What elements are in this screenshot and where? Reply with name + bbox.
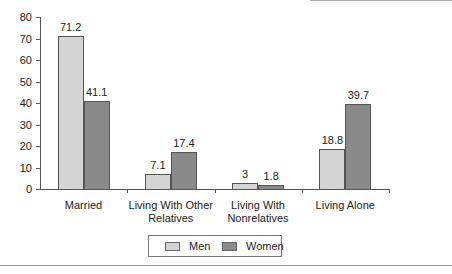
legend-label-women: Women: [246, 240, 284, 253]
bar-value-label: 71.2: [51, 21, 91, 33]
y-tick-label: 60: [0, 54, 32, 66]
bar-value-label: 41.1: [77, 86, 117, 98]
top-rule: [310, 0, 452, 1]
y-tick-label: 0: [0, 183, 32, 195]
legend-swatch-women: [222, 242, 237, 251]
y-tick-label: 10: [0, 162, 32, 174]
legend: Men Women: [148, 235, 282, 257]
bar-men: [58, 36, 84, 190]
bar-women: [171, 152, 197, 190]
bar-men: [232, 183, 258, 190]
bar-value-label: 39.7: [338, 89, 378, 101]
category-label: Living WithNonrelatives: [215, 199, 302, 225]
legend-swatch-men: [165, 242, 180, 251]
y-tick: [36, 82, 40, 83]
x-tick: [302, 189, 303, 193]
bar-women: [345, 104, 371, 190]
y-tick: [36, 146, 40, 147]
x-tick: [389, 189, 390, 193]
bar-value-label: 1.8: [251, 170, 291, 182]
y-tick: [36, 189, 40, 190]
legend-label-men: Men: [189, 240, 210, 253]
y-tick: [36, 60, 40, 61]
category-label: Living Alone: [302, 199, 389, 212]
x-tick: [127, 189, 128, 193]
y-tick: [36, 103, 40, 104]
bar-men: [145, 174, 171, 190]
y-tick-label: 50: [0, 76, 32, 88]
x-tick: [215, 189, 216, 193]
y-tick-label: 30: [0, 119, 32, 131]
y-tick: [36, 17, 40, 18]
bar-men: [319, 149, 345, 190]
category-label: Living With OtherRelatives: [127, 199, 214, 225]
y-tick-label: 40: [0, 97, 32, 109]
y-tick-label: 80: [0, 11, 32, 23]
bar-value-label: 17.4: [164, 137, 204, 149]
y-tick: [36, 125, 40, 126]
y-axis: [40, 17, 41, 190]
bar-women: [258, 185, 284, 190]
category-label: Married: [40, 199, 127, 212]
bar-women: [84, 101, 110, 190]
y-tick-label: 70: [0, 33, 32, 45]
bottom-rule: [0, 265, 452, 266]
y-tick: [36, 168, 40, 169]
y-tick: [36, 39, 40, 40]
y-tick-label: 20: [0, 140, 32, 152]
